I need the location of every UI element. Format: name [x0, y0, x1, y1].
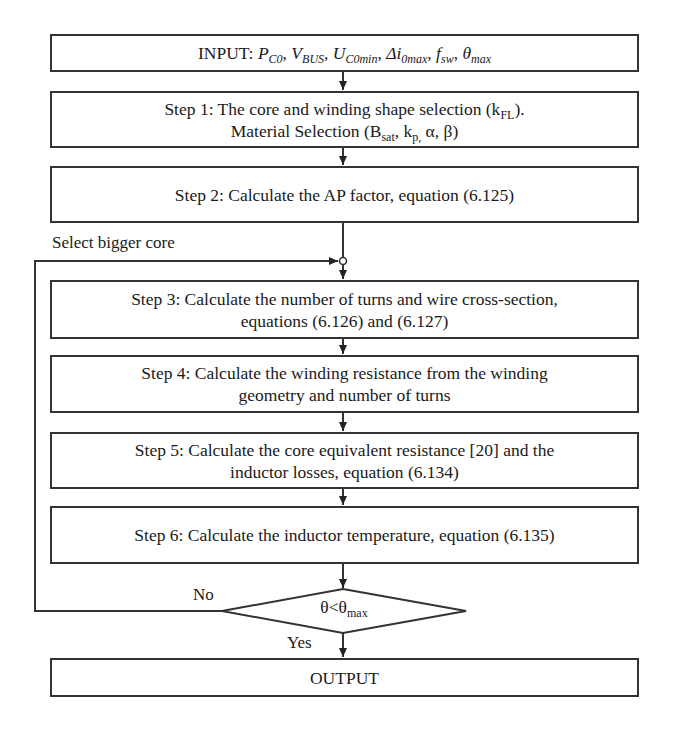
step1-line1: Step 1: The core and winding shape selec… — [164, 98, 524, 120]
step1-sub: FL — [500, 108, 514, 122]
step6-box: Step 6: Calculate the inductor temperatu… — [50, 506, 639, 564]
step3-line1: Step 3: Calculate the number of turns an… — [131, 288, 558, 310]
step1-l2-sub1: sat — [381, 130, 394, 144]
var-u: U — [333, 43, 346, 63]
step1-text-a: Step 1: The core and winding shape selec… — [164, 99, 500, 119]
step6-text: Step 6: Calculate the inductor temperatu… — [134, 524, 554, 546]
var-theta-sub: max — [471, 52, 491, 66]
step1-l2-a: Material Selection (B — [231, 121, 382, 141]
decision-text: θ<θ — [320, 597, 347, 617]
step1-text-b: ). — [514, 99, 524, 119]
decision-condition: θ<θmax — [222, 597, 466, 618]
input-box: INPUT: PC0, VBUS, UC0min, Δi0max, fsw, θ… — [50, 34, 639, 72]
step1-box: Step 1: The core and winding shape selec… — [50, 91, 639, 148]
var-di-sub: 0max — [401, 52, 427, 66]
var-u-sub: C0min — [345, 52, 377, 66]
step1-l2-b: , k — [395, 121, 413, 141]
step1-l2-sub2: p, — [412, 130, 421, 144]
var-v-sub: BUS — [302, 52, 324, 66]
step2-box: Step 2: Calculate the AP factor, equatio… — [50, 166, 639, 223]
output-text: OUTPUT — [310, 667, 379, 689]
step1-line2: Material Selection (Bsat, kp, α, β) — [231, 120, 459, 142]
input-prefix: INPUT: — [198, 43, 258, 63]
var-v: V — [291, 43, 302, 63]
step5-line1: Step 5: Calculate the core equivalent re… — [135, 439, 554, 461]
step5-line2: inductor losses, equation (6.134) — [230, 461, 459, 483]
output-box: OUTPUT — [50, 658, 639, 697]
step4-line2: geometry and number of turns — [239, 384, 451, 406]
var-f-sub: sw — [441, 52, 454, 66]
decision-sub: max — [347, 606, 368, 620]
loop-label: Select bigger core — [52, 233, 175, 253]
step3-box: Step 3: Calculate the number of turns an… — [50, 280, 639, 339]
var-di: Δi — [386, 43, 401, 63]
var-theta: θ — [462, 43, 471, 63]
step4-line1: Step 4: Calculate the winding resistance… — [141, 362, 547, 384]
step3-line2: equations (6.126) and (6.127) — [241, 310, 449, 332]
step1-l2-c: α, β) — [421, 121, 458, 141]
input-text: INPUT: PC0, VBUS, UC0min, Δi0max, fsw, θ… — [198, 42, 491, 64]
var-p-sub: C0 — [269, 52, 283, 66]
no-label: No — [193, 585, 214, 605]
step5-box: Step 5: Calculate the core equivalent re… — [50, 432, 639, 489]
step2-text: Step 2: Calculate the AP factor, equatio… — [175, 184, 514, 206]
step4-box: Step 4: Calculate the winding resistance… — [50, 355, 639, 413]
yes-label: Yes — [287, 633, 312, 653]
var-p: P — [258, 43, 269, 63]
